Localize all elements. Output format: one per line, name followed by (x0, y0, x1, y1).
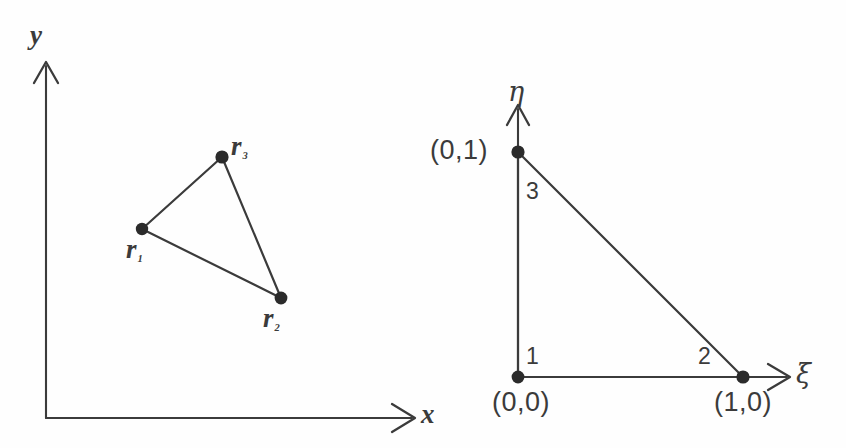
figure-canvas: y x r1 r2 r3 η ξ (0,1) (0,0) (1,0) 3 1 2 (0, 0, 846, 448)
vertex-label-r3-subscript: 3 (242, 150, 248, 161)
edge-number-label-3: 3 (526, 180, 539, 203)
vertex-label-r2-base: r (263, 303, 274, 333)
edge-r3-r2 (222, 157, 281, 298)
vertex-dot-r3 (215, 150, 228, 163)
coordinate-label-node1: (0,0) (492, 389, 550, 416)
eta-axis-label: η (508, 78, 524, 105)
vertex-dot-node1 (512, 371, 525, 384)
vertex-label-r1: r1 (126, 236, 143, 265)
xi-axis-label: ξ (796, 360, 811, 387)
vertex-dot-r1 (136, 223, 148, 235)
coordinate-label-node3: (0,1) (430, 137, 488, 164)
vertex-label-r3-base: r (231, 131, 242, 161)
node-number-label-1: 1 (526, 345, 539, 368)
edge-r1-r3 (142, 157, 222, 229)
vertex-label-r3: r3 (231, 133, 248, 162)
vertex-label-r2: r2 (263, 305, 280, 334)
vertex-label-r1-subscript: 1 (137, 253, 143, 264)
vertex-dot-node2 (736, 370, 749, 383)
vertex-dot-node3 (511, 145, 524, 158)
vertex-dot-r2 (275, 292, 288, 305)
vertex-label-r2-subscript: 2 (274, 322, 280, 333)
vertex-label-r1-base: r (126, 234, 137, 264)
node-number-label-2: 2 (698, 345, 711, 368)
x-axis-label: x (421, 401, 435, 428)
diagram-vector-layer (0, 0, 846, 448)
edge-r2-r1 (142, 229, 281, 298)
y-axis-label: y (30, 22, 42, 49)
coordinate-label-node2: (1,0) (714, 389, 772, 416)
